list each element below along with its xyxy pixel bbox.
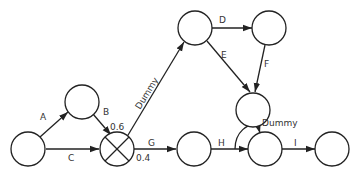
label-c: C xyxy=(68,153,74,163)
label-p-upper: 0.6 xyxy=(110,122,125,132)
node-5 xyxy=(178,11,212,45)
label-b: B xyxy=(103,107,109,117)
node-4 xyxy=(177,132,211,166)
node-1 xyxy=(11,132,45,166)
network-diagram: A B C Dummy 0.6 0.4 D E F G H Dummy I xyxy=(0,0,359,177)
label-g: G xyxy=(148,138,155,148)
edge-dummy-2-head xyxy=(258,126,260,133)
edge-e xyxy=(207,41,250,92)
label-dummy-1: Dummy xyxy=(133,75,161,111)
node-6 xyxy=(252,11,286,45)
label-p-lower: 0.4 xyxy=(136,153,151,163)
node-8 xyxy=(248,132,282,166)
label-a: A xyxy=(40,112,47,122)
label-i: I xyxy=(294,138,297,148)
label-h: H xyxy=(218,138,225,148)
label-d: D xyxy=(219,15,226,25)
label-dummy-2: Dummy xyxy=(262,118,298,128)
node-2 xyxy=(65,85,99,119)
edge-b xyxy=(93,114,111,135)
label-f: F xyxy=(264,59,269,69)
node-9 xyxy=(315,132,349,166)
label-e: E xyxy=(221,50,227,60)
